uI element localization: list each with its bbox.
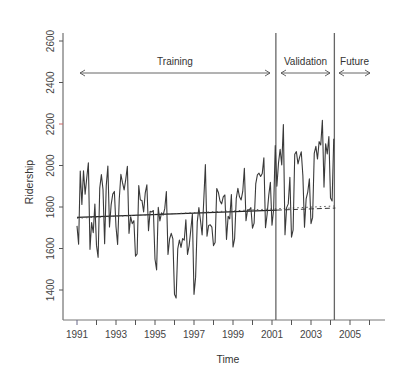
x-tick-label: 2005 (339, 329, 362, 340)
y-tick-label: 1800 (45, 195, 56, 218)
x-tick-label: 1995 (144, 329, 167, 340)
partition-arrows: TrainingValidationFuture (80, 56, 370, 76)
x-tick-label: 2003 (300, 329, 323, 340)
x-tick-label: 1993 (105, 329, 128, 340)
y-axis-title: Ridership (23, 160, 35, 205)
partition-label: Training (157, 56, 193, 67)
partition-arrow-training: Training (80, 56, 270, 76)
y-tick-label: 2000 (45, 154, 56, 177)
ridership-time-series-chart: 1400160018002000220024002600 19911993199… (0, 0, 405, 378)
x-axis-title: Time (217, 353, 240, 365)
x-axis: 19911993199519971999200120032005 (63, 320, 385, 340)
x-tick-label: 1999 (222, 329, 245, 340)
partition-label: Validation (284, 56, 327, 67)
y-tick-label: 2200 (45, 112, 56, 135)
partition-arrow-future: Future (339, 56, 370, 76)
y-axis: 1400160018002000220024002600 (45, 29, 63, 320)
partition-arrow-validation: Validation (281, 56, 330, 76)
y-tick-label: 1600 (45, 237, 56, 260)
y-tick-label: 1400 (45, 278, 56, 301)
y-tick-label: 2400 (45, 71, 56, 94)
x-tick-label: 1997 (183, 329, 206, 340)
x-tick-label: 1991 (66, 329, 89, 340)
partition-label: Future (340, 56, 369, 67)
x-tick-label: 2001 (261, 329, 284, 340)
y-tick-label: 2600 (45, 29, 56, 52)
